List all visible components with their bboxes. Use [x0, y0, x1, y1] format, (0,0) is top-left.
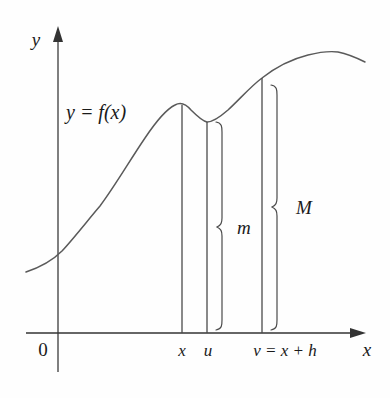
- y-axis-label: y: [30, 29, 41, 50]
- tick-label-u: u: [204, 341, 213, 360]
- x-axis-label: x: [362, 339, 372, 360]
- function-label: y = f(x): [64, 101, 126, 124]
- tick-label-v: v = x + h: [253, 341, 317, 360]
- function-curve: [26, 52, 365, 272]
- y-axis-arrowhead: [53, 26, 63, 42]
- brace-M: [271, 85, 277, 330]
- brace-label-M: M: [295, 197, 313, 218]
- brace-m: [216, 122, 222, 330]
- figure-root: y x 0 y = f(x) x u v = x + h m M: [0, 0, 390, 398]
- tick-label-x: x: [177, 341, 186, 360]
- brace-label-m: m: [237, 217, 251, 238]
- calculus-diagram: y x 0 y = f(x) x u v = x + h m M: [0, 0, 390, 398]
- x-axis-arrowhead: [350, 328, 366, 338]
- origin-label: 0: [38, 339, 48, 360]
